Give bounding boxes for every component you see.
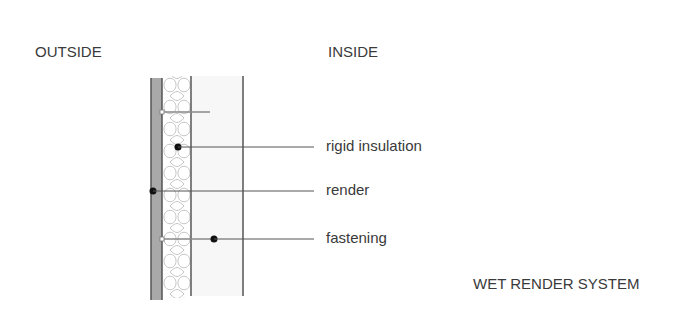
callout-render: render xyxy=(326,181,369,198)
outside-label: OUTSIDE xyxy=(35,43,102,60)
substrate-wall xyxy=(192,76,243,296)
callout-fastening: fastening xyxy=(326,229,387,246)
inside-label: INSIDE xyxy=(328,43,378,60)
insulation-layer xyxy=(162,76,191,298)
callout-rigid-insulation: rigid insulation xyxy=(326,137,422,154)
diagram-title: WET RENDER SYSTEM xyxy=(473,275,639,292)
